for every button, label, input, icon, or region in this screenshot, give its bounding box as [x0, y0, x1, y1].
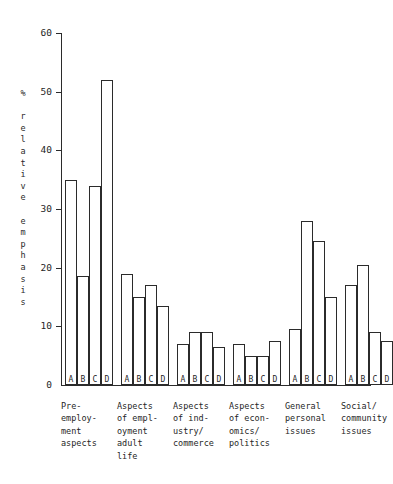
- bar[interactable]: [189, 332, 201, 385]
- bar-group: ABCD: [345, 33, 393, 385]
- bar[interactable]: [269, 341, 281, 385]
- y-axis-label: % r e l a t i v e e m p h a s i s: [16, 88, 30, 308]
- y-axis-tick-label: 30: [26, 204, 52, 214]
- bar-group: ABCD: [233, 33, 281, 385]
- bar[interactable]: [345, 285, 357, 385]
- plot-area: ABCDABCDABCDABCDABCDABCD: [61, 33, 371, 385]
- bar[interactable]: [177, 344, 189, 385]
- bar[interactable]: [89, 186, 101, 385]
- bar[interactable]: [77, 276, 89, 385]
- category-caption: Pre- employ- ment aspects: [61, 400, 97, 450]
- y-axis-tick-label: 60: [26, 28, 52, 38]
- bar[interactable]: [301, 221, 313, 385]
- bar[interactable]: [121, 274, 133, 385]
- category-caption: General personal issues: [285, 400, 326, 437]
- category-caption: Aspects of ind- ustry/ commerce: [173, 400, 214, 450]
- bar[interactable]: [325, 297, 337, 385]
- y-axis-tick-label: 50: [26, 87, 52, 97]
- bar[interactable]: [233, 344, 245, 385]
- bar[interactable]: [65, 180, 77, 385]
- bar[interactable]: [201, 332, 213, 385]
- y-axis-tick-label: 20: [26, 263, 52, 273]
- bar[interactable]: [381, 341, 393, 385]
- bar[interactable]: [289, 329, 301, 385]
- y-axis-tick-label: 0: [26, 380, 52, 390]
- bar[interactable]: [145, 285, 157, 385]
- bar[interactable]: [101, 80, 113, 385]
- bar[interactable]: [313, 241, 325, 385]
- bar[interactable]: [245, 356, 257, 385]
- bar-group: ABCD: [289, 33, 337, 385]
- y-axis-tick-label: 10: [26, 321, 52, 331]
- bar[interactable]: [357, 265, 369, 385]
- bar-group: ABCD: [177, 33, 225, 385]
- bar-group: ABCD: [65, 33, 113, 385]
- bar[interactable]: [133, 297, 145, 385]
- bar-group: ABCD: [121, 33, 169, 385]
- bar[interactable]: [213, 347, 225, 385]
- x-axis-line: [61, 385, 371, 386]
- y-axis-tick-label: 40: [26, 145, 52, 155]
- bar[interactable]: [157, 306, 169, 385]
- category-caption: Aspects of empl- oyment adult life: [117, 400, 158, 462]
- category-caption: Aspects of econ- omics/ politics: [229, 400, 270, 450]
- category-caption: Social/ community issues: [341, 400, 387, 437]
- bar[interactable]: [257, 356, 269, 385]
- bar[interactable]: [369, 332, 381, 385]
